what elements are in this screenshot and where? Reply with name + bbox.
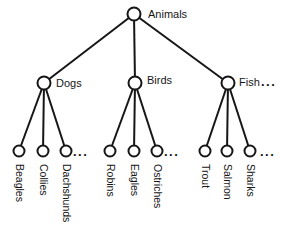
label-collies: Collies [38,164,50,196]
node-eagles [129,146,140,157]
node-ostriches [152,146,163,157]
label-animals: Animals [148,8,188,20]
label-ostriches: Ostriches [152,164,164,208]
node-dachshunds [61,146,72,157]
edge-fish-trout [205,83,228,151]
node-fish [222,77,235,90]
edge-dogs-collies [43,83,44,151]
edge-animals-dogs [44,14,134,83]
edge-birds-eagles [134,83,135,151]
label-eagles: Eagles [129,164,141,196]
tree-diagram-figure: Animals Dogs Birds Fish ... Beagles Coll… [0,0,286,232]
node-birds [129,77,142,90]
birds-group-ellipsis: ... [164,144,179,159]
edge-dogs-beagles [19,83,44,151]
node-robins [105,146,116,157]
node-trout [200,146,211,157]
node-dogs [38,77,51,90]
label-robins: Robins [105,164,117,197]
label-dogs: Dogs [56,77,82,89]
leaf-edges [19,83,250,151]
node-animals [128,8,141,21]
label-beagles: Beagles [14,164,26,202]
node-sharks [245,146,256,157]
node-beagles [14,146,25,157]
taxonomy-tree-svg: Animals Dogs Birds Fish ... Beagles Coll… [0,0,286,232]
label-dachshunds: Dachshunds [61,164,73,222]
edge-fish-salmon [227,83,228,151]
node-salmon [222,146,233,157]
edge-animals-birds [134,14,135,83]
label-trout: Trout [200,164,212,188]
dogs-group-ellipsis: ... [73,144,88,159]
edge-fish-sharks [228,83,250,151]
edge-birds-ostriches [135,83,157,151]
edge-dogs-dachshunds [44,83,66,151]
label-birds: Birds [147,74,173,86]
edge-animals-fish [134,14,228,83]
label-sharks: Sharks [245,164,257,197]
node-collies [38,146,49,157]
fish-group-ellipsis: ... [260,144,275,159]
label-fish: Fish [239,76,260,88]
fish-label-ellipsis: ... [261,74,276,89]
edge-birds-robins [110,83,135,151]
root-edges [44,14,228,83]
label-salmon: Salmon [222,164,234,200]
